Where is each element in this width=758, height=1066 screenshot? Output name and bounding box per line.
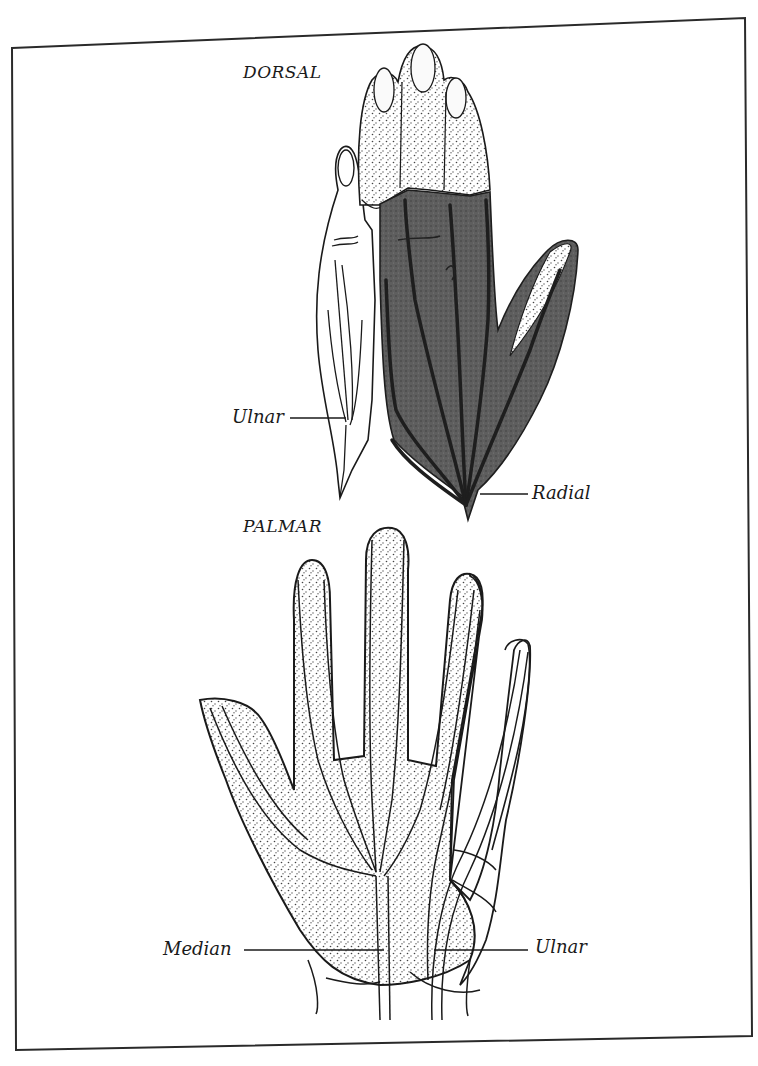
dorsal-middle-fingernail [411,44,435,92]
palmar-hand [200,528,530,1020]
dorsal-hand [317,44,578,520]
palmar-median-label: Median [163,938,232,959]
dorsal-little-fingernail [338,150,354,186]
hand-nerve-diagram [0,0,758,1066]
dorsal-ulnar-label: Ulnar [232,406,284,427]
palmar-view-title: PALMAR [243,516,322,536]
dorsal-radial-label: Radial [532,482,590,503]
palmar-ulnar-label: Ulnar [535,936,587,957]
dorsal-view-title: DORSAL [243,62,322,82]
dorsal-index-fingernail [446,78,466,118]
dorsal-ring-fingernail [374,68,394,112]
